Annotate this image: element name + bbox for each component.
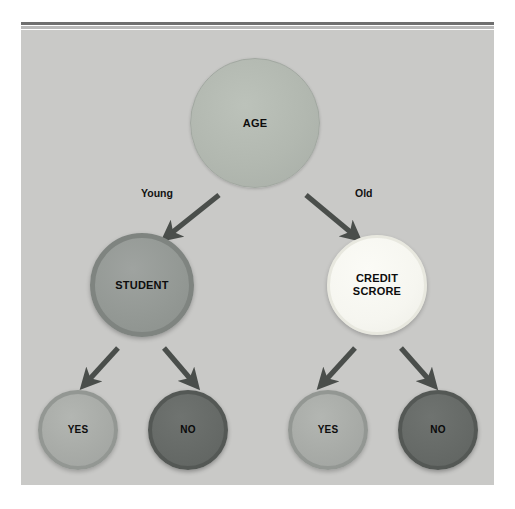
edge-arrow-icon	[401, 348, 431, 382]
slide-canvas: Young Old AGE STUDENT CREDIT SCRORE YES	[0, 0, 515, 509]
header-rule-light	[21, 26, 494, 29]
node-credit-scrore-label-line2: SCRORE	[353, 285, 401, 298]
node-leaf-no-right-label: NO	[430, 424, 445, 436]
header-rule-dark	[21, 22, 494, 25]
node-leaf-no-left-label: NO	[180, 424, 195, 436]
edge-label-young: Young	[141, 187, 173, 199]
edge-arrow-icon	[87, 348, 118, 382]
node-student-label: STUDENT	[115, 279, 168, 292]
node-age[interactable]: AGE	[190, 58, 320, 188]
node-age-label: AGE	[243, 117, 267, 130]
node-credit-scrore-label: CREDIT SCRORE	[353, 272, 401, 297]
node-leaf-yes-left-label: YES	[68, 424, 89, 436]
edge-arrow-icon	[306, 195, 354, 235]
diagram-panel: Young Old AGE STUDENT CREDIT SCRORE YES	[21, 30, 494, 485]
node-credit-scrore[interactable]: CREDIT SCRORE	[327, 235, 427, 335]
edge-label-old: Old	[355, 187, 373, 199]
node-leaf-yes-right-label: YES	[318, 424, 339, 436]
edge-arrow-icon	[164, 348, 193, 382]
decision-tree-diagram: Young Old AGE STUDENT CREDIT SCRORE YES	[21, 30, 494, 485]
edge-arrow-icon	[324, 348, 355, 382]
node-leaf-no-right[interactable]: NO	[398, 390, 478, 470]
node-student[interactable]: STUDENT	[90, 233, 194, 337]
node-leaf-no-left[interactable]: NO	[148, 390, 228, 470]
node-leaf-yes-left[interactable]: YES	[38, 390, 118, 470]
node-credit-scrore-label-line1: CREDIT	[353, 272, 401, 285]
edge-arrow-icon	[169, 195, 219, 235]
node-leaf-yes-right[interactable]: YES	[288, 390, 368, 470]
